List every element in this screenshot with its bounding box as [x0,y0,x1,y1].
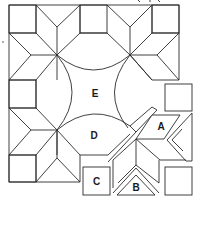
top-middle-square [80,5,107,33]
label-b: B [132,182,139,193]
label-c: C [93,176,100,187]
margin-mark [2,41,4,43]
label-e: E [92,88,99,99]
label-a: A [157,121,164,132]
label-d: D [90,130,97,141]
left-middle-square [9,80,36,108]
star-top-right [107,5,179,80]
corner-square-tr [152,5,179,33]
star-top-left [9,5,107,80]
piece-d: D [57,114,130,155]
corner-square-tl [9,5,36,33]
piece-c: C [83,167,110,195]
quilt-block-diagram: E D A [0,0,199,239]
piece-e: E [36,55,130,130]
corner-square-bl [9,155,36,182]
top-text-fragment [138,0,160,2]
star-bottom-left [9,108,80,182]
right-square [165,84,192,111]
bottom-right-square [165,167,192,195]
